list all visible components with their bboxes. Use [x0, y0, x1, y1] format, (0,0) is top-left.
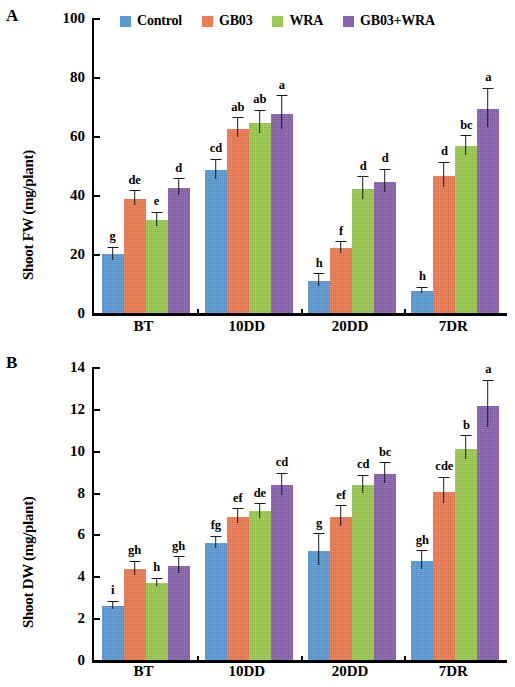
x-axis-category-label: 10DD — [195, 663, 298, 680]
y-axis-tick-label: 14 — [70, 359, 85, 376]
bar-slot: i — [102, 367, 124, 660]
bar-slot: a — [477, 18, 499, 313]
x-axis-category-label: BT — [92, 663, 195, 680]
y-axis-tick — [93, 660, 100, 662]
error-bar-cap — [276, 473, 287, 474]
error-bar — [156, 579, 157, 586]
significance-letter: d — [360, 160, 367, 173]
bar-gb03-plus-wra-20dd — [374, 182, 396, 313]
bar-gb03-plus-wra-10dd — [271, 485, 293, 660]
significance-letter: f — [339, 225, 343, 238]
error-bar — [112, 602, 113, 609]
panel-b-bar-groups: ighhghfgefdecdgefcdbcghcdeba — [94, 367, 507, 660]
significance-letter: b — [463, 419, 470, 432]
bar-gb03-plus-wra-7dr — [477, 109, 499, 313]
error-bar-cap — [232, 117, 243, 118]
significance-letter: a — [485, 363, 491, 376]
x-axis-category-label: 7DR — [402, 318, 505, 335]
error-bar-cap — [439, 477, 450, 478]
panel-b-letter: B — [6, 353, 17, 373]
error-bar-cap — [210, 536, 221, 537]
x-axis-tick — [301, 656, 303, 663]
bar-wra-7dr — [455, 449, 477, 660]
bar-gb03-7dr — [433, 176, 455, 313]
error-bar — [488, 89, 489, 127]
bar-slot: de — [249, 367, 271, 660]
bar-slot: ef — [227, 367, 249, 660]
error-bar — [384, 170, 385, 192]
error-bar-cap — [358, 176, 369, 177]
y-axis-tick-label: 12 — [70, 400, 85, 417]
error-bar-cap — [232, 508, 243, 509]
bar-gb03-plus-wra-7dr — [477, 406, 499, 660]
error-bar-cap — [151, 212, 162, 213]
x-axis-category-label: 7DR — [402, 663, 505, 680]
x-axis-category-label: 10DD — [195, 318, 298, 335]
error-bar-cap — [129, 561, 140, 562]
significance-letter: bc — [379, 446, 392, 459]
error-bar — [444, 478, 445, 503]
y-axis-tick-label: 60 — [70, 128, 85, 145]
error-bar-cap — [254, 503, 265, 504]
bar-slot: h — [411, 18, 433, 313]
bar-group-10dd: fgefdecd — [197, 367, 300, 660]
error-bar-cap — [129, 190, 140, 191]
bar-slot: bc — [374, 367, 396, 660]
error-bar — [156, 213, 157, 227]
error-bar-cap — [314, 273, 325, 274]
error-bar — [362, 177, 363, 199]
bar-control-7dr — [411, 291, 433, 313]
bar-slot: ef — [330, 367, 352, 660]
bar-slot: cd — [271, 367, 293, 660]
figure-shoot-biomass: A Shoot FW (mg/plant) ControlGB03WRAGB03… — [0, 0, 515, 687]
significance-letter: ef — [336, 489, 346, 502]
y-axis-tick-label: 2 — [78, 610, 86, 627]
y-axis-tick-label: 0 — [78, 652, 86, 669]
significance-letter: h — [153, 561, 160, 574]
panel-a-bar-groups: gdeedcdababahfddhdbca — [94, 18, 507, 313]
bar-group-10dd: cdababa — [197, 18, 300, 313]
error-bar-cap — [254, 110, 265, 111]
significance-letter: ab — [253, 93, 266, 106]
panel-b-y-axis-title: Shoot DW (mg/plant) — [20, 496, 37, 628]
error-bar-cap — [276, 95, 287, 96]
significance-letter: a — [279, 79, 285, 92]
y-axis-tick-label: 100 — [63, 10, 86, 27]
bar-group-7dr: ghcdeba — [404, 367, 507, 660]
error-bar-cap — [461, 435, 472, 436]
bar-control-bt — [102, 254, 124, 313]
bar-control-20dd — [308, 551, 330, 660]
error-bar-cap — [336, 505, 347, 506]
y-axis-tick-label: 20 — [70, 246, 85, 263]
panel-a-plot-area: 020406080100 gdeedcdababahfddhdbca — [92, 18, 507, 316]
error-bar-cap — [210, 159, 221, 160]
bar-slot: h — [146, 367, 168, 660]
panel-a-y-axis-title: Shoot FW (mg/plant) — [20, 150, 37, 280]
significance-letter: ab — [231, 101, 244, 114]
error-bar — [384, 463, 385, 482]
bar-slot: ab — [227, 18, 249, 313]
bar-slot: d — [352, 18, 374, 313]
error-bar — [466, 136, 467, 155]
significance-letter: ef — [233, 492, 243, 505]
error-bar — [237, 118, 238, 137]
error-bar-cap — [358, 475, 369, 476]
error-bar — [362, 476, 363, 493]
bar-slot: gh — [124, 367, 146, 660]
significance-letter: cd — [357, 458, 370, 471]
y-axis-tick — [93, 313, 100, 315]
bar-slot: e — [146, 18, 168, 313]
bar-wra-20dd — [352, 485, 374, 660]
bar-slot: gh — [168, 367, 190, 660]
bar-control-10dd — [205, 170, 227, 313]
bar-gb03-20dd — [330, 517, 352, 660]
significance-letter: h — [419, 270, 426, 283]
bar-control-bt — [102, 606, 124, 660]
panel-a-letter: A — [6, 6, 18, 26]
bar-wra-20dd — [352, 189, 374, 313]
error-bar — [488, 381, 489, 427]
error-bar-cap — [439, 162, 450, 163]
bar-gb03-plus-wra-20dd — [374, 474, 396, 660]
bar-slot: d — [433, 18, 455, 313]
bar-gb03-plus-wra-bt — [168, 188, 190, 313]
